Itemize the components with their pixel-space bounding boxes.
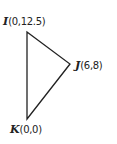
triangle-shape bbox=[27, 32, 70, 119]
vertex-coords-k: (0,0) bbox=[20, 124, 42, 135]
vertex-label-i: I(0,12.5) bbox=[3, 15, 45, 28]
vertex-letter-k: K bbox=[10, 123, 20, 136]
vertex-label-j: J(6,8) bbox=[75, 59, 102, 72]
triangle-diagram: I(0,12.5) J(6,8) K(0,0) bbox=[0, 0, 117, 144]
vertex-coords-i: (0,12.5) bbox=[8, 16, 45, 27]
vertex-coords-j: (6,8) bbox=[80, 60, 102, 71]
vertex-label-k: K(0,0) bbox=[10, 123, 42, 136]
